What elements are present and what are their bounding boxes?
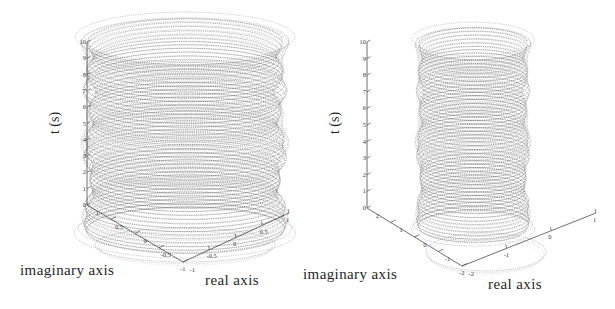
axis-tick-label: 0 — [74, 201, 86, 208]
axis-tick-label: 7 — [354, 88, 366, 95]
z-axis-label-right: t (s) — [327, 98, 343, 148]
tick-mark — [87, 187, 91, 189]
axis-tick-label: 10 — [74, 38, 86, 45]
axis-tick-label: 4 — [354, 138, 366, 145]
axis-tick-label: 3 — [74, 152, 86, 159]
axis-tick-label: 0.5 — [260, 228, 276, 235]
axis-tick-label: 1 — [85, 209, 99, 216]
tick-mark — [367, 140, 371, 142]
tick-mark — [367, 40, 371, 42]
axis-tick-label: 0 — [233, 240, 249, 247]
tick-mark — [550, 227, 551, 231]
tick-mark — [183, 260, 188, 263]
real-axis-label-left: real axis — [205, 272, 259, 289]
axis-tick-label: 3 — [354, 154, 366, 161]
axis-tick-label: 1 — [354, 187, 366, 194]
tick-mark — [209, 246, 210, 250]
axis-tick-label: 9 — [354, 55, 366, 62]
envelope-ring — [414, 208, 533, 241]
tick-mark — [367, 90, 371, 92]
tick-mark — [235, 234, 236, 238]
axis-tick-label: 10 — [354, 38, 366, 45]
axis-tick-label: -0.5 — [207, 252, 223, 259]
axis-tick-label: -1 — [504, 251, 520, 258]
imaginary-axis-label-left: imaginary axis — [20, 262, 114, 279]
axis-tick-label: 4 — [74, 136, 86, 143]
tick-mark — [367, 73, 371, 75]
figure-container: t (s) imaginary axis real axis 109876543… — [0, 0, 615, 309]
helix-trajectory-left — [74, 12, 295, 258]
tick-mark — [391, 220, 396, 223]
tick-mark — [367, 189, 371, 191]
tick-mark — [367, 106, 371, 108]
axis-tick-label: 5 — [354, 121, 366, 128]
tick-mark — [288, 209, 289, 213]
axis-tick-label: 7 — [74, 87, 86, 94]
tick-mark — [367, 173, 371, 175]
imaginary-axis-label-right: imaginary axis — [303, 266, 397, 283]
axis-tick-label: 1 — [389, 226, 403, 233]
tick-mark — [111, 217, 116, 220]
axis-tick-label: 5 — [74, 120, 86, 127]
tick-mark — [367, 156, 371, 158]
axis-tick-label: -1 — [180, 265, 196, 272]
tick-mark — [87, 89, 91, 91]
envelope-ring — [411, 212, 534, 246]
axis-tick-label: 1 — [593, 216, 609, 223]
axis-tick-label: 0 — [354, 204, 366, 211]
axis-tick-label: -2 — [459, 269, 475, 276]
real-axis-label-right: real axis — [488, 276, 542, 293]
axis-tick-label: 0 — [413, 241, 427, 248]
tick-mark — [367, 123, 371, 125]
tick-mark — [506, 244, 507, 248]
axis-tick-label: -0.5 — [157, 251, 171, 258]
tick-mark — [462, 264, 467, 267]
tick-mark — [595, 209, 596, 213]
axis-tick-label: 2 — [354, 171, 366, 178]
tick-mark — [367, 57, 371, 59]
axis-tick-label: -1 — [436, 255, 450, 262]
axis-tick-label: 9 — [74, 54, 86, 61]
axis-tick-label: 6 — [74, 103, 86, 110]
tick-mark — [87, 170, 91, 172]
tick-mark — [87, 56, 91, 58]
axis-tick-label: 0 — [548, 233, 564, 240]
axis-tick-label: 0 — [133, 237, 147, 244]
axis-tick-label: 6 — [354, 104, 366, 111]
axis-tick-label: 2 — [365, 212, 379, 219]
helix-trajectory-right — [411, 22, 534, 246]
axis-tick-label: 8 — [354, 71, 366, 78]
tick-mark — [438, 249, 443, 252]
tick-mark — [135, 231, 140, 234]
axis-tick-label: 1 — [286, 216, 302, 223]
axis-tick-label: 2 — [74, 168, 86, 175]
axis-tick-label: 8 — [74, 71, 86, 78]
base-projection-ellipse — [98, 231, 272, 263]
plot-panel-left: t (s) imaginary axis real axis 109876543… — [0, 0, 307, 309]
envelope-ring — [81, 19, 289, 66]
plot-panel-right: t (s) imaginary axis real axis 109876543… — [308, 0, 615, 309]
envelope-ring — [75, 12, 294, 62]
axis-tick-label: 1 — [74, 185, 86, 192]
tick-mark — [367, 206, 371, 208]
z-axis-label-left: t (s) — [47, 98, 63, 148]
axis-tick-label: 0.5 — [109, 223, 123, 230]
